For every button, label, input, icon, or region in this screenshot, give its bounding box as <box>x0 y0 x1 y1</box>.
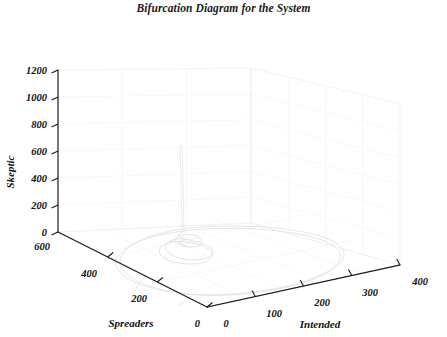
z-axis: 1200 1000 800 600 400 200 0 Skeptic <box>4 65 58 238</box>
z-tick-label: 600 <box>31 146 48 157</box>
x-axis-title: Intended <box>299 318 341 330</box>
x-tick-label: 400 <box>411 276 429 287</box>
z-axis-title: Skeptic <box>4 155 16 188</box>
x-tick-label: 200 <box>313 297 331 308</box>
z-tick-label: 1200 <box>26 65 48 76</box>
y-tick-label: 600 <box>34 241 51 252</box>
x-tick-label: 300 <box>361 287 379 298</box>
x-tick-label: 100 <box>266 308 283 319</box>
y-tick-label: 200 <box>130 293 148 304</box>
bifurcation-diagram-figure: Bifurcation Diagram for the System <box>0 0 447 337</box>
z-tick-label: 400 <box>30 173 48 184</box>
y-axis-title: Spreaders <box>108 317 153 329</box>
x-tick-label: 0 <box>223 318 229 329</box>
z-tick-label: 200 <box>30 200 48 211</box>
plot-canvas: 1200 1000 800 600 400 200 0 Skeptic 600 … <box>0 0 447 337</box>
y-tick-label: 0 <box>195 318 201 329</box>
y-tick-label: 400 <box>80 268 98 279</box>
z-tick-label: 1000 <box>26 92 48 103</box>
z-tick-label: 800 <box>31 119 48 130</box>
z-tick-label: 0 <box>42 227 48 238</box>
grid-lines <box>58 68 400 307</box>
